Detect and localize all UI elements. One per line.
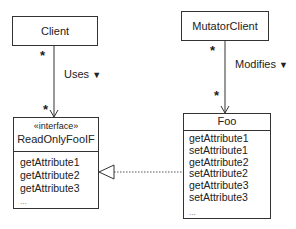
class-name: Client xyxy=(13,17,97,45)
operation-item: setAttribute1 xyxy=(189,145,249,157)
class-name: Foo xyxy=(184,114,270,129)
operations-list: getAttribute1 setAttribute1 getAttribute… xyxy=(189,133,249,219)
direction-triangle-icon: ▼ xyxy=(279,60,288,70)
class-client[interactable]: Client xyxy=(12,16,98,46)
operation-item: getAttribute3 xyxy=(20,182,80,195)
realization-triangle-icon xyxy=(99,165,114,179)
uses-target-multiplicity: * xyxy=(43,102,48,117)
operation-item: getAttribute2 xyxy=(20,169,80,182)
class-name: MutatorClient xyxy=(182,12,268,40)
class-name: ReadOnlyFooIF xyxy=(14,132,98,146)
class-readonly-foo-if[interactable]: «interface» ReadOnlyFooIF getAttribute1 … xyxy=(13,117,99,209)
operation-item: ... xyxy=(189,207,249,219)
operation-item: ... xyxy=(20,195,80,208)
operations-list: getAttribute1 getAttribute2 getAttribute… xyxy=(20,156,80,208)
association-name: Modifies xyxy=(235,58,276,70)
direction-triangle-icon: ▼ xyxy=(92,70,101,80)
operation-item: getAttribute1 xyxy=(20,156,80,169)
association-name: Uses xyxy=(64,68,89,80)
compartment-divider xyxy=(184,130,270,131)
class-mutator-client[interactable]: MutatorClient xyxy=(181,11,269,41)
operation-item: setAttribute3 xyxy=(189,192,249,204)
stereotype-label: «interface» xyxy=(14,121,98,132)
compartment-divider xyxy=(14,151,98,152)
uses-label: Uses ▼ xyxy=(64,68,101,80)
modifies-target-multiplicity: * xyxy=(214,88,219,103)
modifies-label: Modifies ▼ xyxy=(235,58,288,70)
modifies-source-multiplicity: * xyxy=(210,43,215,58)
class-foo[interactable]: Foo getAttribute1 setAttribute1 getAttri… xyxy=(183,113,271,219)
uses-source-multiplicity: * xyxy=(40,48,45,63)
